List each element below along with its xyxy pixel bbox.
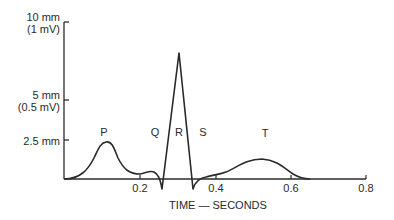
ecg-waveform-line [64, 53, 310, 189]
y-label-0-5mv: (0.5 mV) [0, 101, 60, 113]
x-label-0-4: 0.4 [208, 182, 223, 194]
x-label-0-8: 0.8 [358, 182, 373, 194]
y-label-2-5mm: 2.5 mm [0, 135, 60, 147]
wave-label-s: S [199, 126, 206, 138]
x-axis-title: TIME — SECONDS [169, 199, 267, 211]
wave-label-p: P [100, 126, 107, 138]
wave-label-q: Q [151, 126, 160, 138]
x-label-0-6: 0.6 [283, 182, 298, 194]
x-label-0-2: 0.2 [132, 182, 147, 194]
wave-label-r: R [175, 126, 183, 138]
y-label-1mv: (1 mV) [0, 23, 60, 35]
y-label-10mm: 10 mm [0, 11, 60, 23]
wave-label-t: T [262, 127, 269, 139]
y-label-5mm: 5 mm [0, 89, 60, 101]
